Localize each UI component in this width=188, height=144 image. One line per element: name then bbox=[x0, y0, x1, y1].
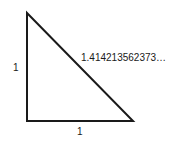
vertical-leg-label: 1 bbox=[13, 62, 19, 73]
horizontal-leg-label: 1 bbox=[77, 126, 83, 137]
right-triangle bbox=[27, 13, 133, 121]
triangle-diagram: 1 1 1.414213562373… bbox=[0, 0, 188, 144]
hypotenuse-label: 1.414213562373… bbox=[81, 52, 166, 63]
